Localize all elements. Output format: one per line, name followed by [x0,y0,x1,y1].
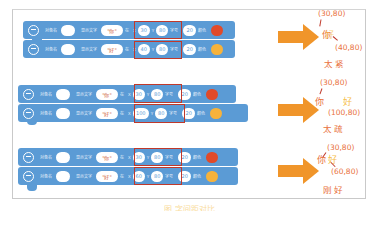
xy-highlight-box [134,167,182,185]
minus-circle-icon[interactable] [23,171,34,182]
size-input[interactable]: 20 [183,25,196,36]
xy-highlight-box [134,41,182,59]
size-input[interactable]: 20 [183,44,196,55]
text-input[interactable]: "好" [101,44,123,55]
role-input[interactable] [61,44,75,55]
minus-circle-icon[interactable] [23,108,34,119]
text-block-row-2[interactable]: 对象名 显示文字 "好" 在 X 100 Y 80 字号 20 颜色 [18,104,248,122]
xy-highlight-box [134,104,185,123]
minus-circle-icon[interactable] [23,152,34,163]
color-picker-yellow[interactable] [206,171,218,182]
xy-highlight-box [134,84,182,103]
arrow-right-icon [278,97,320,123]
text-input[interactable]: "你" [96,89,118,100]
text-input[interactable]: "你" [101,25,123,36]
color-picker-yellow[interactable] [211,44,223,55]
role-input[interactable] [56,152,70,163]
figure-caption: 图 字间距对比 [0,203,379,211]
minus-circle-icon[interactable] [28,44,39,55]
text-input[interactable]: "好" [96,108,118,119]
text-block-row-2[interactable]: 对象名 显示文字 "好" 在 X 40 Y 80 字号 20 颜色 [23,40,235,58]
arrow-right-icon [278,24,320,50]
minus-circle-icon[interactable] [28,25,39,36]
color-picker-yellow[interactable] [210,108,222,119]
color-picker-red[interactable] [206,89,218,100]
text-block-row-1[interactable]: 对象名 显示文字 "你" 在 X 30 Y 80 字号 20 颜色 [18,148,238,166]
color-picker-red[interactable] [206,152,218,163]
text-input[interactable]: "你" [96,152,118,163]
role-input[interactable] [56,108,70,119]
text-block-row-1[interactable]: 对象名 显示文字 "你" 在 X 30 Y 80 字号 20 颜色 [23,21,235,39]
minus-circle-icon[interactable] [23,89,34,100]
text-input[interactable]: "好" [96,171,118,182]
color-picker-red[interactable] [211,25,223,36]
arrow-right-icon [278,158,320,184]
text-block-row-2[interactable]: 对象名 显示文字 "好" 在 X 60 Y 80 字号 20 颜色 [18,167,238,185]
role-input[interactable] [56,171,70,182]
xy-highlight-box [134,21,182,39]
xy-highlight-box [134,148,182,166]
block-notch [27,185,37,191]
role-input[interactable] [56,89,70,100]
text-block-row-1[interactable]: 对象名 显示文字 "你" 在 X 30 Y 80 字号 20 颜色 [18,85,236,103]
role-input[interactable] [61,25,75,36]
